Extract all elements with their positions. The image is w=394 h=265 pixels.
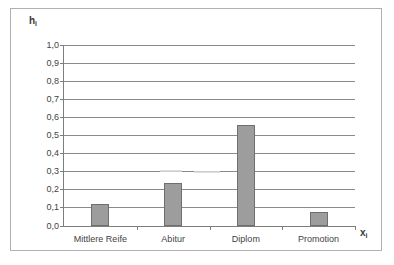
gridline: 0,8 <box>64 81 355 82</box>
y-axis-tick-label: 0,5 <box>46 131 59 140</box>
x-axis-category-label: Abitur <box>161 235 185 244</box>
y-axis-tick-label: 0,0 <box>46 221 59 230</box>
x-axis-tick-mark <box>137 226 138 230</box>
y-axis-title-subscript: i <box>35 20 37 27</box>
y-axis-tick-label: 0,3 <box>46 167 59 176</box>
scan-artifact <box>194 171 220 173</box>
y-axis-tick-label: 0,2 <box>46 185 59 194</box>
y-axis-tick-label: 0,8 <box>46 76 59 85</box>
y-axis-tick-mark <box>60 81 64 82</box>
bar <box>164 183 182 226</box>
bar <box>237 125 255 226</box>
gridline: 0,5 <box>64 135 355 136</box>
y-axis-tick-mark <box>60 171 64 172</box>
x-axis-category-label: Mittlere Reife <box>74 235 127 244</box>
x-axis-tick-mark <box>282 226 283 230</box>
gridline: 0,2 <box>64 189 355 190</box>
x-axis-title-subscript: i <box>366 232 368 239</box>
y-axis-tick-label: 0,1 <box>46 203 59 212</box>
plot-area: 0,00,10,20,30,40,50,60,70,80,91,0 Mittle… <box>63 45 355 227</box>
y-axis-tick-label: 0,9 <box>46 58 59 67</box>
y-axis-tick-mark <box>60 135 64 136</box>
x-axis-tick-mark <box>355 226 356 230</box>
bar <box>91 204 109 226</box>
y-axis-tick-label: 0,4 <box>46 149 59 158</box>
y-axis-tick-mark <box>60 226 64 227</box>
gridline: 0,6 <box>64 117 355 118</box>
x-axis-title: xi <box>360 227 368 239</box>
x-axis-tick-mark <box>210 226 211 230</box>
y-axis-tick-label: 1,0 <box>46 40 59 49</box>
y-axis-tick-label: 0,7 <box>46 94 59 103</box>
bar <box>310 212 328 226</box>
y-axis-tick-mark <box>60 63 64 64</box>
y-axis-tick-mark <box>60 45 64 46</box>
y-axis-title: hi <box>29 15 37 27</box>
y-axis-tick-mark <box>60 207 64 208</box>
x-axis-category-label: Promotion <box>298 235 339 244</box>
y-axis-tick-mark <box>60 189 64 190</box>
y-axis-tick-mark <box>60 153 64 154</box>
y-axis-tick-mark <box>60 117 64 118</box>
gridline: 0,9 <box>64 63 355 64</box>
y-axis-tick-mark <box>60 99 64 100</box>
y-axis-tick-label: 0,6 <box>46 112 59 121</box>
gridline: 0,7 <box>64 99 355 100</box>
chart-figure: hi xi 0,00,10,20,30,40,50,60,70,80,91,0 … <box>10 8 382 251</box>
gridline: 0,4 <box>64 153 355 154</box>
scan-artifact <box>160 170 182 172</box>
x-axis-category-label: Diplom <box>232 235 260 244</box>
gridline: 1,0 <box>64 45 355 46</box>
